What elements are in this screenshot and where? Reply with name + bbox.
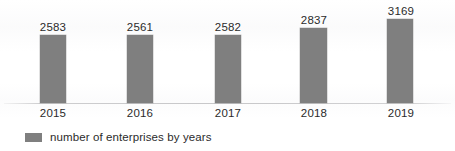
bar-group: 2582 2017 [188,0,275,112]
bar-value-label: 2582 [188,21,268,33]
category-label: 2018 [274,107,354,119]
bar-group: 2561 2016 [100,0,187,112]
legend-entry-label: number of enterprises by years [50,131,212,143]
bar-group: 2837 2018 [274,0,361,112]
bar[interactable] [40,35,66,103]
plot-area: 2583 2015 2561 2016 2582 2017 2837 2018 … [0,0,455,112]
bar-value-label: 2561 [100,21,180,33]
chart-legend: number of enterprises by years [25,131,212,143]
bar[interactable] [127,35,153,103]
category-label: 2015 [13,107,93,119]
bar[interactable] [215,35,241,103]
bar[interactable] [300,28,327,103]
bar-value-label: 3169 [361,5,441,17]
bar-value-label: 2837 [274,14,354,26]
bar-group: 2583 2015 [13,0,100,112]
category-label: 2017 [188,107,268,119]
category-label: 2019 [361,107,441,119]
category-label: 2016 [100,107,180,119]
bar-value-label: 2583 [13,21,93,33]
bar-group: 3169 2019 [361,0,448,112]
bar[interactable] [387,19,413,103]
legend-color-swatch [25,133,42,142]
bar-chart-figure: 2583 2015 2561 2016 2582 2017 2837 2018 … [0,0,455,151]
